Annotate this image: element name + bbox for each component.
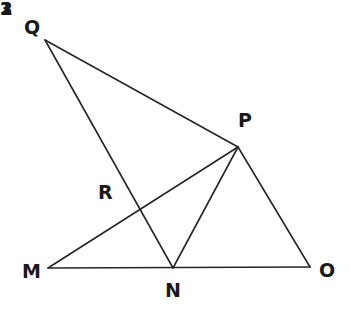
segment-PO — [238, 147, 310, 267]
vertex-label-Q: Q — [24, 18, 40, 37]
vertex-label-N: N — [165, 281, 181, 300]
segment-MP — [48, 147, 238, 268]
vertex-label-P: P — [238, 111, 252, 130]
segment-QP — [45, 40, 238, 147]
segment-NP — [173, 147, 238, 268]
vertex-label-R: R — [98, 183, 113, 202]
segment-QN — [45, 40, 173, 268]
angle-label-3: 3 — [0, 0, 13, 18]
segment-MO — [48, 267, 310, 268]
vertex-label-M: M — [22, 262, 41, 281]
segments-group — [45, 40, 310, 268]
geometry-figure: Q P R M N O 1 2 3 — [0, 0, 350, 323]
vertex-label-O: O — [319, 261, 335, 280]
geometry-canvas — [0, 0, 350, 323]
